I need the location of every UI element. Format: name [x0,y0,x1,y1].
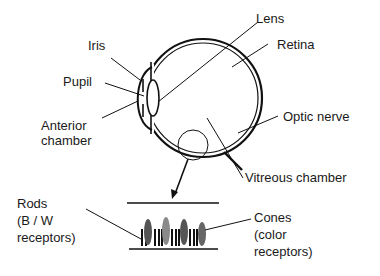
retina-outline [148,43,258,153]
label-iris: Iris [88,38,105,53]
photoreceptors [141,217,206,246]
eye-diagram: Lens Iris Retina Pupil Anterior chamber … [0,0,380,276]
label-pupil: Pupil [63,74,92,89]
label-optic-nerve: Optic nerve [283,109,349,124]
label-rods-line3: receptors) [17,230,76,245]
label-rods-line2: (B / W [17,213,53,228]
label-anterior-chamber-line1: Anterior [41,118,87,133]
label-anterior-chamber-line2: chamber [41,133,92,148]
label-vitreous-chamber: Vitreous chamber [245,170,347,185]
label-cones-line1: Cones [254,210,292,225]
label-rods-line1: Rods [17,196,47,211]
label-lens: Lens [256,11,284,26]
label-cones-line2: (color [254,227,287,242]
label-cones-line3: receptors) [254,244,313,259]
label-retina: Retina [277,37,315,52]
sclera-outline [144,39,262,157]
lens-shape [147,80,159,116]
zoom-arrow [175,159,188,194]
